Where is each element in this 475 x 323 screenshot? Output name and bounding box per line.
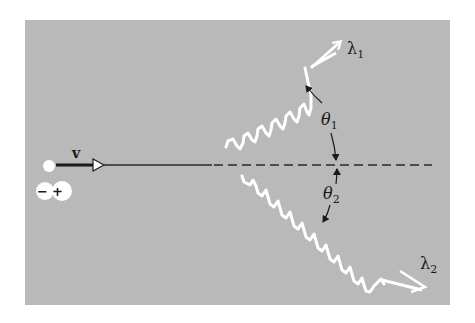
plus-sign: +	[52, 184, 63, 199]
minus-sign: −	[37, 184, 48, 199]
lambda-1-label: λ1	[347, 39, 364, 61]
particle-dot	[43, 160, 55, 172]
velocity-label: v	[71, 145, 81, 161]
velocity-arrow-head	[93, 159, 104, 171]
theta-2-label: θ2	[323, 184, 340, 206]
theta-1-label: θ1	[321, 110, 338, 132]
annihilation-diagram: − + v λ1 λ2 θ1 θ2	[0, 0, 475, 323]
lambda-2-label: λ2	[420, 254, 437, 276]
